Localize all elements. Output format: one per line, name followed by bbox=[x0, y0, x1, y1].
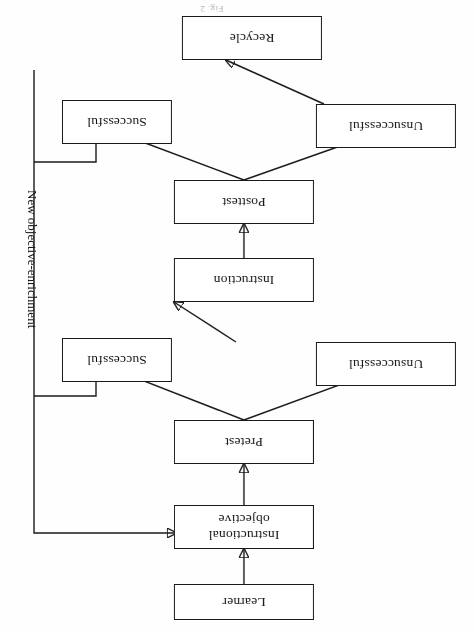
node-recycle-label: Recycle bbox=[226, 30, 279, 46]
figure-page: Fig. 2 bbox=[0, 0, 474, 632]
node-posttest-successful-label: Successful bbox=[83, 114, 151, 130]
node-posttest-unsuccessful-label: Unsuccessful bbox=[345, 118, 427, 134]
edge-posttest-successful-to-spine bbox=[34, 144, 96, 162]
node-instructional-objective: Instructional objective bbox=[174, 505, 314, 549]
node-pretest-successful: Successful bbox=[62, 338, 172, 382]
edge-unsuccessful-to-recycle bbox=[226, 60, 324, 104]
node-pretest-unsuccessful: Unsuccessful bbox=[316, 342, 456, 386]
node-instruction: Instruction bbox=[174, 258, 314, 302]
node-pretest-label: Pretest bbox=[221, 434, 267, 450]
node-pretest-successful-label: Successful bbox=[83, 352, 151, 368]
node-learner-label: Learner bbox=[218, 594, 269, 610]
node-recycle: Recycle bbox=[182, 16, 322, 60]
node-instruction-label: Instruction bbox=[210, 272, 279, 288]
edge-label-new-objective-enrichment: New objective-enrichment bbox=[24, 190, 40, 328]
node-instructional-objective-label-line2: objective bbox=[214, 511, 273, 527]
node-posttest-unsuccessful: Unsuccessful bbox=[316, 104, 456, 148]
flowchart-figure: Learner Instructional objective Pretest … bbox=[0, 0, 474, 632]
node-learner: Learner bbox=[174, 584, 314, 620]
edge-pretest-successful-to-spine bbox=[34, 382, 96, 396]
node-posttest-successful: Successful bbox=[62, 100, 172, 144]
edge-unsuccessful-to-instruction bbox=[174, 302, 236, 342]
node-posttest: Posttest bbox=[174, 180, 314, 224]
node-posttest-label: Posttest bbox=[218, 194, 270, 210]
node-pretest-unsuccessful-label: Unsuccessful bbox=[345, 356, 427, 372]
node-pretest: Pretest bbox=[174, 420, 314, 464]
node-instructional-objective-label-line1: Instructional bbox=[205, 527, 284, 543]
